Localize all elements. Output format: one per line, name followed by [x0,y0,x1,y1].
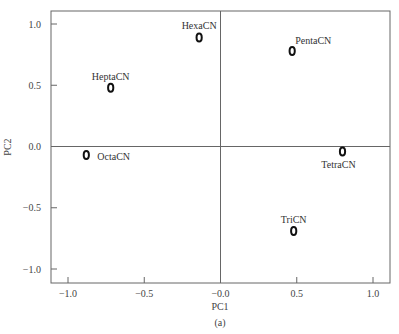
x-axis-ticks: −1.0−0.5−0.00.51.0 [59,277,379,299]
circle-marker-icon [291,227,296,235]
y-tick-label: −1.0 [23,264,41,275]
circle-marker-icon [340,147,345,155]
point-label: PentaCN [295,35,331,46]
x-tick-label: −0.5 [135,288,153,299]
x-tick-label: −0.0 [211,288,229,299]
point-label: TriCN [281,214,307,225]
point-label: HexaCN [182,20,217,31]
point-label: OctaCN [97,151,130,162]
data-points: HexaCNPentaCNHeptaCNOctaCNTetraCNTriCN [84,20,356,235]
circle-marker-icon [108,84,113,92]
y-tick-label: −0.5 [23,202,41,213]
data-point-tetracn: TetraCN [321,147,355,170]
x-tick-label: 1.0 [367,288,380,299]
x-tick-label: −1.0 [59,288,77,299]
y-axis-label: PC2 [2,138,13,155]
data-point-pentacn: PentaCN [290,35,332,55]
circle-marker-icon [290,47,295,55]
reference-lines [51,11,390,283]
point-label: TetraCN [321,159,355,170]
figure-caption: (a) [214,317,225,329]
circle-marker-icon [197,33,202,41]
pca-scatter-plot: 1.00.50.0−0.5−1.0 −1.0−0.5−0.00.51.0 Hex… [0,0,399,334]
data-point-tricn: TriCN [281,214,307,235]
point-label: HeptaCN [92,71,130,82]
circle-marker-icon [84,151,89,159]
x-axis-label: PC1 [211,301,228,312]
data-point-heptacn: HeptaCN [92,71,130,92]
data-point-hexacn: HexaCN [182,20,217,41]
data-point-octacn: OctaCN [84,151,130,162]
y-tick-label: 1.0 [29,19,42,30]
y-tick-label: 0.5 [29,80,42,91]
x-tick-label: 0.5 [291,288,304,299]
y-tick-label: 0.0 [29,141,42,152]
